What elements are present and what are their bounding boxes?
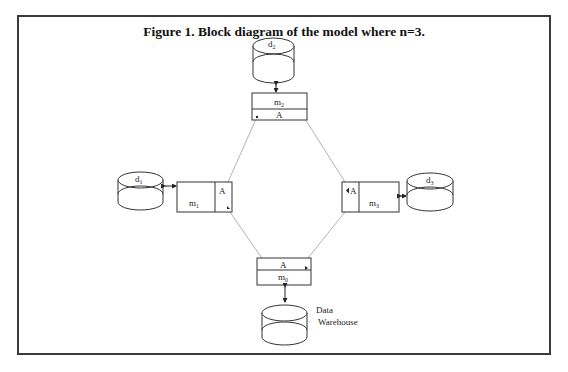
m0-agent: A — [280, 260, 287, 270]
database-warehouse[interactable] — [262, 305, 307, 345]
module-m0[interactable]: A m0 — [257, 258, 311, 285]
warehouse-label-line1: Data — [316, 305, 333, 315]
database-d1[interactable]: d1 — [118, 172, 163, 210]
module-m3[interactable]: m3 A — [342, 182, 399, 212]
m1-agent: A — [219, 186, 226, 196]
database-d2[interactable]: d2 — [253, 38, 294, 83]
ring-connectors — [228, 119, 345, 270]
module-m1[interactable]: m1 A — [177, 182, 232, 212]
connector-m3-m0 — [308, 212, 345, 258]
module-m2[interactable]: m2 A — [252, 93, 307, 120]
warehouse-label-line2: Warehouse — [318, 317, 358, 327]
database-d3[interactable]: d3 — [407, 173, 453, 211]
m3-agent: A — [350, 186, 357, 196]
m2-agent-dot-icon — [256, 116, 258, 118]
block-diagram: d2 m2 A d1 m1 A m3 A d3 — [0, 0, 568, 372]
m2-agent: A — [276, 110, 283, 120]
connector-m2-m3 — [305, 119, 345, 182]
connector-m2-m1 — [228, 119, 256, 182]
